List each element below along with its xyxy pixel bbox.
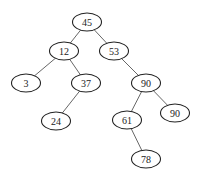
tree-node: 3 [12, 74, 41, 92]
node-label: 12 [59, 46, 69, 57]
tree-node: 12 [50, 42, 79, 60]
tree-node: 90 [161, 104, 190, 122]
node-label: 24 [51, 116, 61, 127]
node-label: 3 [24, 78, 29, 89]
node-label: 53 [109, 46, 119, 57]
tree-node: 78 [132, 150, 161, 168]
tree-node: 61 [113, 111, 142, 129]
tree-node: 53 [100, 42, 129, 60]
node-label: 78 [141, 154, 151, 165]
node-label: 37 [81, 78, 91, 89]
node-label: 90 [170, 108, 180, 119]
tree-node: 45 [73, 13, 102, 31]
tree-node: 24 [42, 112, 71, 130]
node-label: 90 [141, 78, 151, 89]
tree-node: 90 [132, 74, 161, 92]
tree-node: 37 [72, 74, 101, 92]
binary-tree-diagram: 4512533379024619078 [0, 0, 199, 179]
node-label: 61 [122, 115, 132, 126]
node-label: 45 [82, 17, 92, 28]
